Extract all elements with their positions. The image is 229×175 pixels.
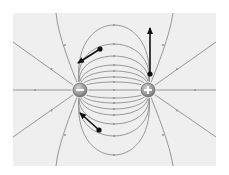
direction-tick bbox=[176, 68, 178, 70]
direction-tick bbox=[64, 44, 66, 46]
negative-charge: negative charge bbox=[72, 82, 89, 99]
direction-tick bbox=[113, 154, 115, 156]
direction-tick bbox=[113, 24, 115, 26]
direction-tick bbox=[113, 64, 115, 66]
direction-tick bbox=[194, 89, 196, 91]
direction-tick bbox=[113, 97, 115, 99]
direction-tick bbox=[176, 110, 178, 112]
direction-tick bbox=[51, 110, 53, 112]
direction-tick bbox=[162, 44, 164, 46]
test-point-dot bbox=[96, 127, 101, 132]
direction-tick bbox=[113, 135, 115, 137]
test-point-dot bbox=[147, 71, 152, 76]
direction-tick bbox=[113, 70, 115, 72]
direction-tick bbox=[113, 123, 115, 125]
direction-tick bbox=[162, 134, 164, 136]
direction-tick bbox=[113, 89, 115, 91]
direction-tick bbox=[64, 134, 66, 136]
direction-tick bbox=[113, 81, 115, 83]
direction-tick bbox=[113, 108, 115, 110]
positive-charge: positive charge bbox=[140, 82, 157, 99]
dipole-field-diagram: Electric dipole field lines Electric fie… bbox=[0, 0, 229, 175]
direction-tick bbox=[113, 114, 115, 116]
direction-tick bbox=[113, 43, 115, 45]
direction-tick bbox=[113, 76, 115, 78]
direction-tick bbox=[113, 55, 115, 57]
direction-tick bbox=[34, 89, 36, 91]
test-point-dot bbox=[97, 46, 102, 51]
direction-tick bbox=[51, 68, 53, 70]
direction-tick bbox=[113, 102, 115, 104]
